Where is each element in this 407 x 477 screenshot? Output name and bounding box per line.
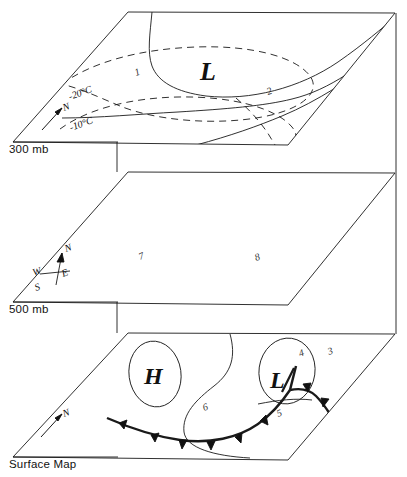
- level-label-300mb: 300 mb: [9, 143, 49, 155]
- level-stack-diagram: L -20°C -10°C 1 2 N 7 8: [0, 0, 407, 477]
- panel-500mb-plane: [13, 172, 395, 305]
- low-pressure-symbol-300mb: L: [199, 57, 216, 86]
- level-label-surface: Surface Map: [9, 458, 76, 470]
- level-label-500mb: 500 mb: [9, 303, 49, 315]
- high-pressure-symbol: H: [143, 363, 164, 389]
- panel-300mb: L -20°C -10°C 1 2 N: [13, 12, 397, 162]
- low-pressure-symbol-surface: L: [269, 367, 285, 393]
- panel-500mb: 7 8 N W E S: [13, 172, 395, 305]
- panel-surface: H L 3 4 5 6 N: [13, 333, 395, 460]
